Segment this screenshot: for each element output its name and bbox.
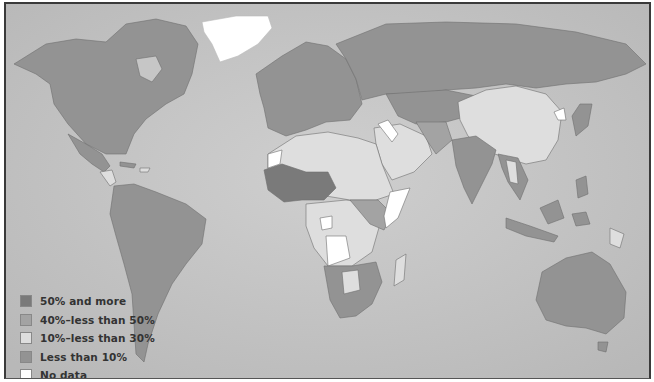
legend-label: 40%–less than 50%: [40, 314, 155, 326]
legend-item-50-and-more: 50% and more: [20, 292, 155, 310]
legend-item-10-30: 10%–less than 30%: [20, 329, 155, 347]
legend-item-less-than-10: Less than 10%: [20, 348, 155, 366]
legend-swatch: [20, 314, 32, 326]
legend-swatch: [20, 295, 32, 307]
legend-label: No data: [40, 369, 87, 379]
legend-label: 10%–less than 30%: [40, 332, 155, 344]
legend-swatch: [20, 332, 32, 344]
legend-swatch: [20, 369, 32, 379]
world-map: 50% and more 40%–less than 50% 10%–less …: [4, 2, 651, 379]
legend-item-no-data: No data: [20, 366, 155, 379]
legend-swatch: [20, 351, 32, 363]
legend-item-40-50: 40%–less than 50%: [20, 311, 155, 329]
map-legend: 50% and more 40%–less than 50% 10%–less …: [20, 292, 155, 379]
legend-label: 50% and more: [40, 295, 126, 307]
legend-label: Less than 10%: [40, 351, 127, 363]
